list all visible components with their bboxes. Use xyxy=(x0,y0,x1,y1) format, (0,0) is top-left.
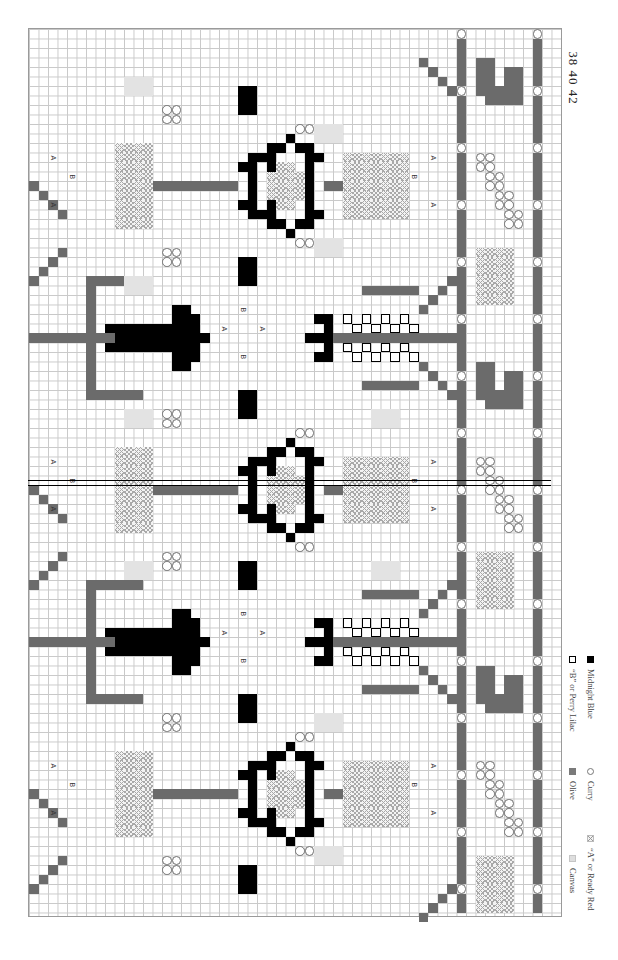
stitch-olive xyxy=(200,789,210,799)
lilac-stitch xyxy=(409,656,419,666)
curry-chain xyxy=(504,523,514,533)
stitch-red xyxy=(495,267,505,277)
stitch-red xyxy=(134,808,144,818)
stitch-olive xyxy=(495,96,505,106)
stitch-red xyxy=(115,485,125,495)
stitch-canvas xyxy=(143,561,153,571)
medallion-stitch xyxy=(276,523,286,533)
page-number-label: 38 40 42 xyxy=(565,51,581,105)
stitch-olive xyxy=(381,286,391,296)
stitch-red xyxy=(134,447,144,457)
stitch-red xyxy=(124,751,134,761)
curry-chain xyxy=(485,780,495,790)
stitch-red xyxy=(400,200,410,210)
stitch-red xyxy=(476,903,486,913)
stitch-olive xyxy=(504,400,514,410)
stitch-curry xyxy=(457,314,467,324)
stitch-midnight xyxy=(124,637,134,647)
stitch-midnight xyxy=(305,637,315,647)
stitch-olive xyxy=(48,637,58,647)
stitch-olive xyxy=(86,276,96,286)
stitch-red xyxy=(371,485,381,495)
medallion-core xyxy=(295,495,305,505)
stitch-red xyxy=(504,257,514,267)
curry-chain xyxy=(485,761,495,771)
stitch-olive xyxy=(533,637,543,647)
stitch-olive xyxy=(162,789,172,799)
stitch-olive xyxy=(390,333,400,343)
medallion-core xyxy=(276,172,286,182)
medallion-core xyxy=(295,789,305,799)
stitch-olive xyxy=(324,181,334,191)
stitch-midnight xyxy=(172,666,182,676)
stitch-red xyxy=(504,286,514,296)
stitch-midnight xyxy=(162,324,172,334)
stitch-olive xyxy=(476,371,486,381)
stitch-olive xyxy=(210,789,220,799)
stitch-red xyxy=(381,457,391,467)
stitch-red xyxy=(485,875,495,885)
stitch-canvas xyxy=(134,276,144,286)
medallion-stitch xyxy=(305,827,315,837)
stitch-olive xyxy=(533,856,543,866)
circle-swatch-icon xyxy=(588,768,595,775)
stitch-olive xyxy=(457,552,467,562)
stitch-olive xyxy=(229,485,239,495)
stitch-midnight xyxy=(115,324,125,334)
stitch-olive xyxy=(485,694,495,704)
stitch-red xyxy=(124,457,134,467)
stitch-red xyxy=(362,495,372,505)
stitch-canvas xyxy=(324,723,334,733)
stitch-red xyxy=(343,780,353,790)
symbol-letter-a: A xyxy=(48,808,58,818)
medallion-stitch xyxy=(276,143,286,153)
curry-chain xyxy=(504,210,514,220)
stitch-curry xyxy=(533,770,543,780)
lilac-stitch xyxy=(343,314,353,324)
medallion-stitch xyxy=(267,210,277,220)
color-legend: Canvas “A” or Ready Red Olive Curry “B” … xyxy=(566,640,614,925)
stitch-red xyxy=(504,571,514,581)
medallion-stitch xyxy=(305,504,315,514)
stitch-red xyxy=(485,580,495,590)
medallion-stitch xyxy=(238,466,248,476)
stitch-midnight xyxy=(238,580,248,590)
medallion-stitch xyxy=(238,162,248,172)
stitch-red xyxy=(143,514,153,524)
stitch-midnight xyxy=(248,400,258,410)
medallion-stitch xyxy=(248,200,258,210)
stitch-olive xyxy=(533,780,543,790)
diagonal-stitch xyxy=(39,267,49,277)
stitch-red xyxy=(400,504,410,514)
lilac-stitch xyxy=(352,628,362,638)
diagonal-stitch xyxy=(58,514,68,524)
stitch-canvas xyxy=(324,846,334,856)
stitch-red xyxy=(352,485,362,495)
stitch-olive xyxy=(485,77,495,87)
stitch-olive xyxy=(485,666,495,676)
stitch-olive xyxy=(533,333,543,343)
stitch-olive xyxy=(533,409,543,419)
stitch-canvas xyxy=(124,561,134,571)
stitch-red xyxy=(485,276,495,286)
stitch-olive xyxy=(533,295,543,305)
stitch-olive xyxy=(409,590,419,600)
stitch-midnight xyxy=(105,647,115,657)
stitch-red xyxy=(390,770,400,780)
stitch-midnight xyxy=(153,628,163,638)
stitch-midnight xyxy=(181,305,191,315)
stitch-red xyxy=(124,780,134,790)
lilac-stitch xyxy=(343,618,353,628)
stitch-red xyxy=(400,770,410,780)
stitch-red xyxy=(134,761,144,771)
stitch-midnight xyxy=(191,656,201,666)
stitch-midnight xyxy=(305,333,315,343)
stitch-olive xyxy=(457,248,467,258)
stitch-olive xyxy=(533,561,543,571)
stitch-red xyxy=(371,181,381,191)
medallion-core xyxy=(295,191,305,201)
stitch-olive xyxy=(504,390,514,400)
stitch-midnight xyxy=(238,571,248,581)
stitch-red xyxy=(400,191,410,201)
stitch-olive xyxy=(172,181,182,191)
